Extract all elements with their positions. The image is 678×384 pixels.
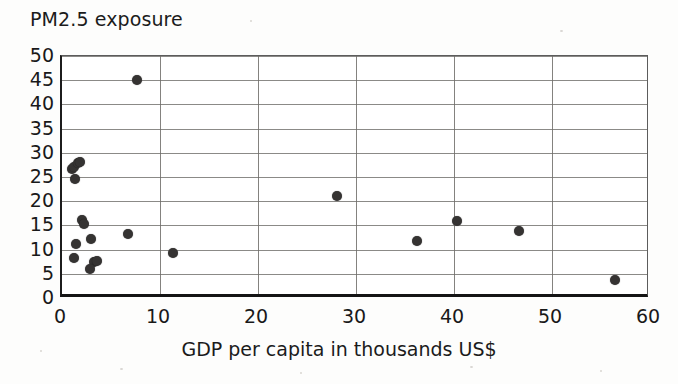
y-axis-tick-labels: 05101520253035404550: [0, 55, 54, 297]
data-point: [168, 248, 178, 258]
data-point: [123, 229, 133, 239]
x-axis-label: GDP per capita in thousands US$: [0, 338, 678, 360]
data-point: [132, 75, 142, 85]
x-tick-label: 0: [30, 305, 90, 327]
x-tick-label: 50: [520, 305, 580, 327]
x-tick-label: 10: [128, 305, 188, 327]
data-point: [92, 256, 102, 266]
data-point: [71, 239, 81, 249]
data-point: [412, 236, 422, 246]
plot-area: [60, 55, 648, 297]
data-point: [70, 174, 80, 184]
data-point: [79, 219, 89, 229]
data-point: [610, 275, 620, 285]
y-tick-label: 30: [2, 141, 54, 163]
data-point: [86, 234, 96, 244]
y-tick-label: 50: [2, 44, 54, 66]
y-tick-label: 40: [2, 92, 54, 114]
scan-artifact: [300, 372, 302, 374]
scan-artifact: [560, 30, 563, 32]
y-tick-label: 35: [2, 117, 54, 139]
data-point: [85, 264, 95, 274]
scan-artifact: [470, 366, 473, 368]
x-tick-label: 30: [324, 305, 384, 327]
x-tick-label: 60: [618, 305, 678, 327]
scatter-points: [62, 56, 647, 294]
y-tick-label: 10: [2, 238, 54, 260]
x-axis-tick-labels: 0102030405060: [60, 305, 648, 331]
scan-artifact: [40, 350, 42, 352]
scan-artifact: [120, 368, 123, 370]
y-tick-label: 20: [2, 189, 54, 211]
x-tick-label: 20: [226, 305, 286, 327]
chart-page: PM2.5 exposure 05101520253035404550 0102…: [0, 0, 678, 384]
data-point: [69, 253, 79, 263]
data-point: [332, 191, 342, 201]
x-tick-label: 40: [422, 305, 482, 327]
scan-artifact: [250, 20, 252, 22]
page-title: PM2.5 exposure: [30, 8, 183, 30]
data-point: [75, 157, 85, 167]
y-tick-label: 45: [2, 68, 54, 90]
y-tick-label: 15: [2, 213, 54, 235]
y-tick-label: 25: [2, 165, 54, 187]
y-tick-label: 5: [2, 262, 54, 284]
data-point: [452, 216, 462, 226]
scan-artifact: [600, 370, 602, 372]
data-point: [514, 226, 524, 236]
